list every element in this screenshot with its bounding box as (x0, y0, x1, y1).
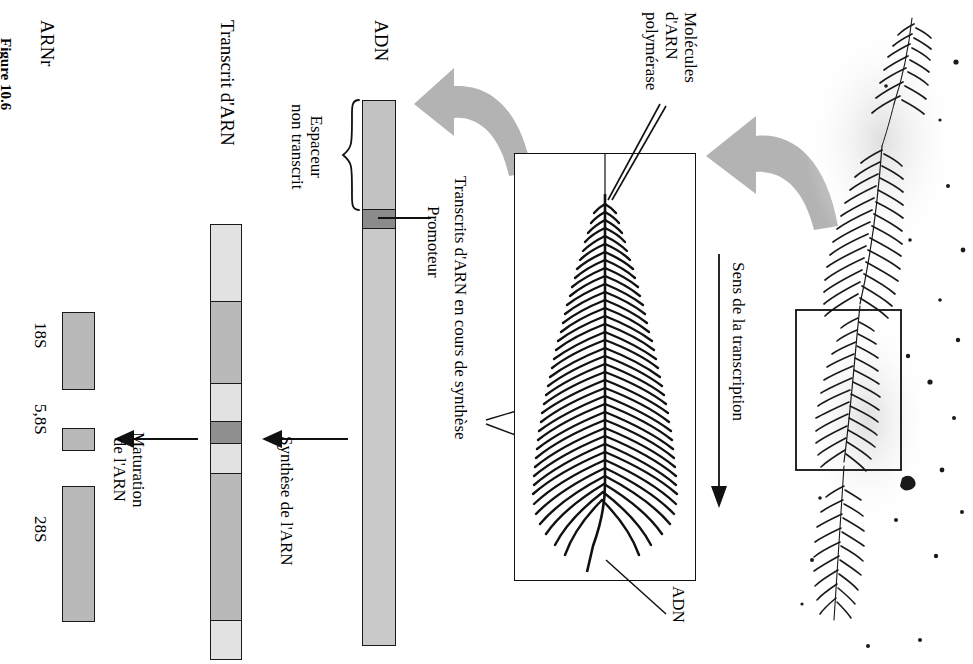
transcript-segment-its1 (211, 383, 241, 421)
sens-transcription-label: Sens de la transcription (729, 262, 748, 421)
christmas-tree-micrograph (515, 154, 693, 578)
transcript-segment-18s (211, 301, 241, 383)
transcript-segment-5-8s (211, 421, 241, 443)
micrograph-panel-zoom (514, 153, 696, 581)
brace-icon (341, 98, 361, 212)
transcript-segment-its2 (211, 443, 241, 473)
dna-segment-espaceur (363, 101, 395, 209)
transcript-segment-28s (211, 473, 241, 620)
dna-segment-transcription-unit (363, 228, 395, 645)
rrna-bar-28s (62, 486, 95, 622)
transcript-segment-spacer-3prime (211, 620, 241, 659)
promoteur-label: Promoteur (424, 206, 443, 278)
polymerase-label: Molécules d'ARN polymérase (642, 12, 700, 90)
espaceur-line-2: non transcrit (287, 104, 306, 189)
transcript-heading: Transcrit d'ARN (217, 20, 238, 146)
rrna-label-28s: 28S (31, 516, 50, 542)
synthese-label: Synthèse de l'ARN (277, 436, 296, 566)
transcript-segment-spacer-5prime (211, 225, 241, 301)
adn-micrograph-leader-line (604, 558, 674, 620)
figure-caption: Figure 10.6 (0, 38, 14, 110)
synthese-arrow-icon (258, 426, 350, 452)
rrna-label-5-8s: 5,8S (31, 404, 50, 435)
transcript-bar (210, 224, 242, 660)
rrna-label-18s: 18S (31, 322, 50, 348)
polymerase-line-1: Molécules (681, 12, 700, 90)
raw-micrograph (790, 0, 973, 664)
maturation-label: Maturation de l'ARN (109, 432, 148, 508)
polymerase-line-3: polymérase (642, 12, 661, 90)
maturation-line-1: Maturation (129, 432, 148, 508)
polymerase-leader-lines (600, 100, 670, 210)
adn-micrograph-label: ADN (669, 586, 688, 623)
rrna-bar-18s (62, 312, 95, 390)
maturation-line-2: de l'ARN (109, 432, 128, 508)
espaceur-line-1: Espaceur (307, 104, 326, 189)
rrna-bar-5-8s (62, 428, 95, 451)
espaceur-label: Espaceur non transcrit (287, 104, 326, 189)
figure-canvas: Figure 10.6 ARNr 18S 5,8S 28S Maturation… (0, 0, 973, 664)
arnr-heading: ARNr (37, 20, 58, 66)
transcrits-en-cours-label: Transcrits d'ARN en cours de synthèse (451, 176, 470, 440)
dna-bar (362, 100, 396, 646)
adn-heading: ADN (371, 20, 392, 61)
polymerase-line-2: d'ARN (661, 12, 680, 90)
